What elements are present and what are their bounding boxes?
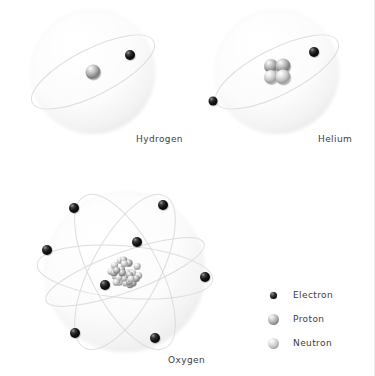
electron — [70, 328, 80, 338]
legend-label: Proton — [293, 314, 324, 324]
nucleon-neutron — [127, 276, 134, 283]
electron — [158, 200, 168, 210]
electron — [150, 333, 160, 343]
electron — [200, 272, 210, 282]
electron-shell — [215, 10, 339, 134]
atom-helium — [206, 10, 348, 134]
legend-item-electron: Electron — [262, 283, 333, 307]
legend-item-neutron: Neutron — [262, 331, 333, 355]
electron — [309, 47, 319, 57]
nucleon-proton — [86, 65, 101, 80]
atom-oxygen — [35, 180, 215, 364]
proton-icon — [262, 314, 284, 325]
neutron-sphere — [268, 338, 279, 349]
nucleon-neutron — [113, 279, 120, 286]
electron — [42, 245, 52, 255]
atom-label-hydrogen: Hydrogen — [136, 134, 183, 144]
electron-sphere — [270, 292, 277, 299]
legend-label: Electron — [293, 290, 333, 300]
electron — [209, 97, 218, 106]
atom-label-helium: Helium — [318, 134, 352, 144]
electron — [132, 237, 142, 247]
electron-icon — [262, 292, 284, 299]
atom-hydrogen — [22, 10, 164, 134]
electron — [69, 203, 79, 213]
electron — [100, 280, 110, 290]
legend-label: Neutron — [293, 338, 332, 348]
nucleon-neutron — [134, 263, 141, 270]
diagram-canvas: HydrogenHeliumOxygen ElectronProtonNeutr… — [0, 0, 375, 376]
atom-label-oxygen: Oxygen — [168, 355, 205, 365]
legend: ElectronProtonNeutron — [262, 283, 333, 355]
nucleon-neutron — [276, 70, 291, 85]
proton-sphere — [268, 314, 279, 325]
nucleon-neutron — [121, 260, 128, 267]
electron — [125, 50, 135, 60]
nucleon-proton — [113, 267, 120, 274]
neutron-icon — [262, 338, 284, 349]
legend-item-proton: Proton — [262, 307, 333, 331]
